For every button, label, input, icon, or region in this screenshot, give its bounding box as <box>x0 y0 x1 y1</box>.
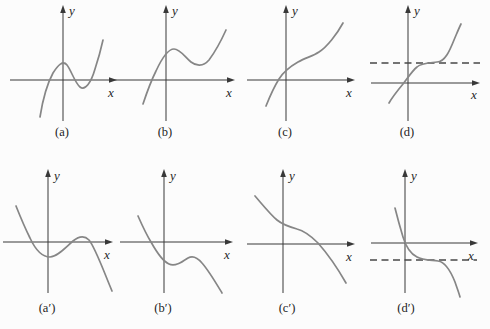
x-axis-label: x <box>225 85 232 100</box>
y-axis-arrow-icon <box>280 169 286 177</box>
panel-caption: (d) <box>400 125 415 139</box>
x-axis-label: x <box>345 85 352 100</box>
function-curve <box>266 23 343 106</box>
y-axis-label: y <box>412 3 420 18</box>
y-axis-arrow-icon <box>45 169 51 177</box>
y-axis-label: y <box>168 168 176 183</box>
x-axis-label: x <box>223 247 230 262</box>
y-axis-label: y <box>67 3 75 18</box>
y-axis-arrow-icon <box>402 169 408 177</box>
y-axis-arrow-icon <box>161 169 167 177</box>
panel-a-prime: xy(a′) <box>3 168 113 315</box>
x-axis-arrow-icon <box>470 240 478 246</box>
x-axis-arrow-icon <box>347 77 355 83</box>
x-axis-arrow-icon <box>227 77 235 83</box>
panel-a: xy(a) <box>10 3 117 139</box>
panel-caption: (c′) <box>279 301 296 315</box>
y-axis-arrow-icon <box>60 5 66 13</box>
panel-caption: (d′) <box>397 301 414 315</box>
function-curve <box>143 30 226 104</box>
x-axis-arrow-icon <box>347 241 355 247</box>
panel-b-prime: xy(b′) <box>120 168 233 315</box>
panel-c: xy(c) <box>247 3 355 139</box>
panel-caption: (b′) <box>154 301 171 315</box>
x-axis-arrow-icon <box>105 239 113 245</box>
panel-d-prime: xy(d′) <box>370 168 478 315</box>
function-curve <box>16 206 112 291</box>
panel-caption: (a) <box>55 125 69 139</box>
y-axis-arrow-icon <box>405 5 411 13</box>
x-axis-label: x <box>345 249 352 264</box>
y-axis-label: y <box>287 168 295 183</box>
function-curve <box>40 40 103 117</box>
figure-canvas: xy(a)xy(b)xy(c)xy(d)xy(a′)xy(b′)xy(c′)xy… <box>0 0 490 329</box>
panel-caption: (b) <box>158 125 173 139</box>
y-axis-label: y <box>290 3 298 18</box>
function-curve <box>255 196 346 283</box>
y-axis-label: y <box>409 168 417 183</box>
panel-caption: (a′) <box>39 301 56 315</box>
x-axis-label: x <box>470 87 477 102</box>
x-axis-label: x <box>103 247 110 262</box>
panel-d: xy(d) <box>370 3 480 139</box>
x-axis-label: x <box>107 85 114 100</box>
function-curve <box>138 216 222 293</box>
x-axis-arrow-icon <box>472 80 480 86</box>
panel-b: xy(b) <box>113 3 235 139</box>
panel-c-prime: xy(c′) <box>247 168 355 315</box>
y-axis-arrow-icon <box>283 5 289 13</box>
x-axis-arrow-icon <box>225 239 233 245</box>
x-axis-label: x <box>467 248 474 263</box>
panel-caption: (c) <box>278 125 292 139</box>
y-axis-arrow-icon <box>163 5 169 13</box>
function-graphs-figure: xy(a)xy(b)xy(c)xy(d)xy(a′)xy(b′)xy(c′)xy… <box>0 0 490 329</box>
y-axis-label: y <box>52 168 60 183</box>
y-axis-label: y <box>170 3 178 18</box>
